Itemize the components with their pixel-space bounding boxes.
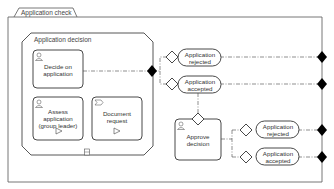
task-decide-label[interactable]: Decide on application [35, 63, 81, 77]
event-ev4-label[interactable]: Application accepted [259, 150, 297, 164]
event-ev2-label[interactable]: Application accepted [181, 78, 219, 92]
task-assess-label[interactable]: Assess application (group leader) [35, 108, 81, 129]
pool-title: Application check [21, 9, 72, 16]
task-approve-label[interactable]: Approve decision [177, 133, 219, 147]
event-ev3-label[interactable]: Application rejected [259, 123, 297, 137]
task-docreq-label[interactable]: Document request [94, 110, 140, 124]
connector-solid-diamond-icon [147, 51, 327, 163]
event-ev1-label[interactable]: Application rejected [181, 51, 219, 65]
subprocess-title: Application decision [34, 36, 91, 43]
